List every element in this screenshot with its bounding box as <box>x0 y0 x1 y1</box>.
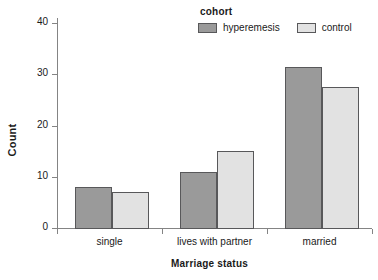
bar-married-control[interactable] <box>322 87 359 229</box>
x-tick-boundary <box>162 229 163 234</box>
bar-chart-figure: cohort hyperemesiscontrol Count Marriage… <box>0 0 378 280</box>
y-tick-label-20: 20 <box>37 119 48 131</box>
bar-lives-with-partner-control[interactable] <box>217 151 254 229</box>
plot-area: 010203040 singlelives with partnermarrie… <box>57 18 372 230</box>
y-tick-10: 10 <box>52 177 57 178</box>
x-tick-boundary <box>57 229 58 234</box>
x-tick-label-lives-with-partner: lives with partner <box>177 236 252 248</box>
bar-single-control[interactable] <box>112 192 149 229</box>
y-tick-20: 20 <box>52 126 57 127</box>
x-tick-boundary <box>267 229 268 234</box>
y-tick-30: 30 <box>52 74 57 75</box>
bar-lives-with-partner-hyperemesis[interactable] <box>180 172 217 229</box>
y-tick-label-30: 30 <box>37 67 48 79</box>
y-axis-title-text: Count <box>6 124 18 157</box>
y-tick-label-0: 0 <box>42 221 48 233</box>
bar-married-hyperemesis[interactable] <box>285 67 322 229</box>
y-tick-40: 40 <box>52 23 57 24</box>
bar-single-hyperemesis[interactable] <box>75 187 112 229</box>
x-tick-boundary <box>372 229 373 234</box>
y-tick-label-10: 10 <box>37 170 48 182</box>
y-axis-title: Count <box>2 0 22 280</box>
y-tick-label-40: 40 <box>37 16 48 28</box>
legend-title: cohort <box>200 6 374 18</box>
y-axis-line <box>57 18 58 229</box>
x-tick-label-married: married <box>303 236 337 248</box>
x-tick-label-single: single <box>96 236 122 248</box>
x-axis-title: Marriage status <box>47 258 372 269</box>
